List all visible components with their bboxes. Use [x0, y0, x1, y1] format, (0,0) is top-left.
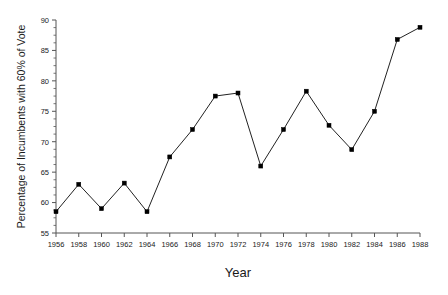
- x-axis-tick-label: 1962: [116, 240, 133, 249]
- x-axis-tick-label: 1984: [366, 240, 383, 249]
- x-axis-tick-label: 1988: [412, 240, 429, 249]
- x-axis-tick-label: 1978: [298, 240, 315, 249]
- y-axis-tick-label: 65: [41, 168, 49, 177]
- x-axis-tick-label: 1968: [184, 240, 201, 249]
- x-axis: 1956195819601962196419661968197019721974…: [48, 233, 429, 249]
- y-axis: 5560657075808590: [41, 16, 56, 238]
- x-axis-tick-label: 1966: [161, 240, 178, 249]
- x-axis-tick-label: 1974: [252, 240, 269, 249]
- y-axis-tick-label: 80: [41, 77, 49, 86]
- data-point-marker: [213, 94, 217, 98]
- data-point-marker: [191, 128, 195, 132]
- x-axis-tick-label: 1956: [48, 240, 65, 249]
- data-point-marker: [418, 25, 422, 29]
- data-point-marker: [54, 210, 58, 214]
- data-point-marker: [282, 128, 286, 132]
- data-point-marker: [259, 164, 263, 168]
- x-axis-tick-label: 1986: [389, 240, 406, 249]
- data-point-marker: [236, 91, 240, 95]
- data-point-marker: [100, 207, 104, 211]
- data-point-marker: [304, 89, 308, 93]
- x-axis-title: Year: [225, 265, 252, 280]
- data-point-marker: [395, 37, 399, 41]
- chart-figure: 5560657075808590 19561958196019621964196…: [0, 0, 448, 295]
- x-axis-tick-label: 1970: [207, 240, 224, 249]
- data-point-marker: [350, 148, 354, 152]
- y-axis-tick-label: 85: [41, 46, 49, 55]
- x-axis-tick-label: 1958: [70, 240, 87, 249]
- x-axis-tick-label: 1982: [343, 240, 360, 249]
- x-axis-tick-label: 1976: [275, 240, 292, 249]
- data-point-marker: [145, 210, 149, 214]
- x-axis-tick-label: 1980: [321, 240, 338, 249]
- data-point-markers: [54, 25, 422, 213]
- x-axis-tick-label: 1960: [93, 240, 110, 249]
- data-point-marker: [122, 181, 126, 185]
- x-axis-tick-label: 1972: [230, 240, 247, 249]
- y-axis-tick-label: 60: [41, 198, 49, 207]
- data-point-marker: [373, 109, 377, 113]
- line-chart: 5560657075808590 19561958196019621964196…: [0, 0, 448, 295]
- y-axis-tick-label: 70: [41, 138, 49, 147]
- data-point-marker: [168, 155, 172, 159]
- y-axis-title: Percentage of Incumbents with 60% of Vot…: [15, 24, 27, 228]
- y-axis-tick-label: 90: [41, 16, 49, 25]
- data-point-marker: [77, 182, 81, 186]
- data-series-line: [56, 27, 420, 211]
- y-axis-tick-label: 75: [41, 107, 49, 116]
- data-point-marker: [327, 123, 331, 127]
- y-axis-tick-label: 55: [41, 229, 49, 238]
- x-axis-tick-label: 1964: [139, 240, 156, 249]
